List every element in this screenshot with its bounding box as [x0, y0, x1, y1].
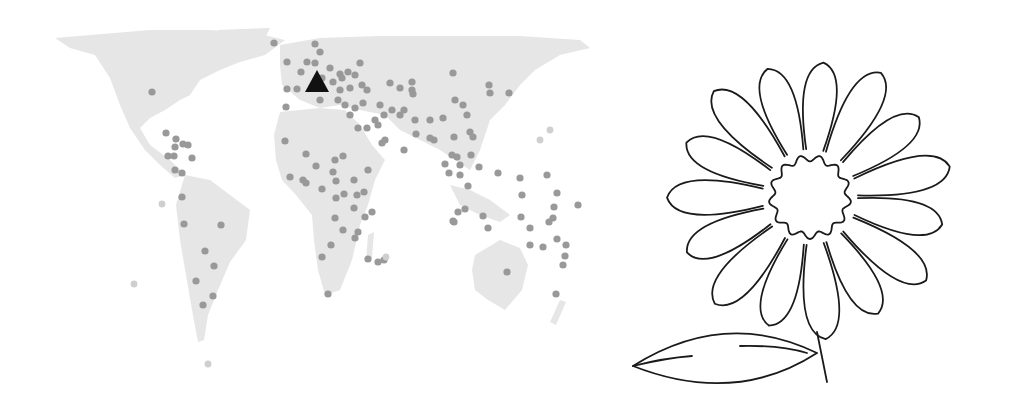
location-dot	[353, 191, 360, 198]
location-dot	[412, 130, 419, 137]
location-dot	[559, 261, 566, 268]
location-dot	[552, 290, 559, 297]
location-dot	[449, 69, 456, 76]
location-dot	[340, 190, 347, 197]
location-dot	[311, 40, 318, 47]
location-dot	[209, 292, 216, 299]
faint-location-dot	[537, 137, 544, 144]
location-dot	[486, 89, 493, 96]
location-dot	[464, 182, 471, 189]
location-dot	[184, 141, 191, 148]
location-dot	[303, 58, 310, 65]
location-dot	[451, 96, 458, 103]
flower-petal	[854, 156, 949, 196]
location-dot	[400, 146, 407, 153]
location-dot	[368, 208, 375, 215]
location-dot	[408, 78, 415, 85]
location-dot	[350, 176, 357, 183]
location-dot	[516, 174, 523, 181]
location-dot	[526, 241, 533, 248]
location-dot	[518, 191, 525, 198]
location-dot	[172, 135, 179, 142]
location-dot	[539, 243, 546, 250]
location-dot	[210, 262, 217, 269]
location-dot	[351, 104, 358, 111]
location-dot	[331, 156, 338, 163]
location-dot	[448, 151, 455, 158]
location-dot	[574, 201, 581, 208]
location-dot	[380, 111, 387, 118]
location-dot	[356, 59, 363, 66]
location-dot	[346, 111, 353, 118]
location-dot	[408, 86, 415, 93]
location-dot	[311, 59, 318, 66]
location-dot	[312, 162, 319, 169]
location-dot	[378, 139, 385, 146]
flower-petal	[712, 227, 785, 306]
faint-location-dot	[205, 361, 212, 368]
location-dot	[324, 290, 331, 297]
location-dot	[332, 177, 339, 184]
location-dot	[461, 205, 468, 212]
location-dot	[459, 101, 466, 108]
location-dot	[450, 218, 457, 225]
location-dot	[334, 96, 341, 103]
location-dot	[363, 124, 370, 131]
location-dot	[374, 121, 381, 128]
flower-petal	[687, 209, 771, 259]
location-dot	[341, 101, 348, 108]
location-dot	[553, 235, 560, 242]
location-dot	[318, 185, 325, 192]
location-dot	[170, 152, 177, 159]
location-dot	[344, 68, 351, 75]
location-dot	[450, 133, 457, 140]
location-dot	[361, 213, 368, 220]
location-dot	[359, 99, 366, 106]
location-dot	[339, 226, 346, 233]
flower-leaf-vein	[633, 346, 807, 366]
location-dot	[286, 173, 293, 180]
flower-petal	[686, 136, 770, 186]
location-dot	[354, 228, 361, 235]
location-dot	[430, 136, 437, 143]
location-dot	[171, 143, 178, 150]
flower-petal	[760, 239, 803, 325]
location-dot	[316, 96, 323, 103]
flower-line-drawing	[620, 40, 980, 400]
location-dot	[386, 79, 393, 86]
location-dot	[339, 152, 346, 159]
location-dot	[456, 171, 463, 178]
location-dot	[336, 86, 343, 93]
continent-south-america	[176, 175, 250, 342]
flower-petal	[803, 63, 837, 151]
location-dot	[148, 88, 155, 95]
location-dot	[441, 160, 448, 167]
flower-center	[769, 156, 851, 239]
location-dot	[283, 58, 290, 65]
location-dot	[550, 203, 557, 210]
location-dot	[360, 188, 367, 195]
faint-location-dot	[131, 281, 138, 288]
continent-australia	[472, 240, 528, 310]
location-dot	[426, 116, 433, 123]
location-dot	[439, 114, 446, 121]
location-dot	[374, 258, 381, 265]
location-dot	[192, 277, 199, 284]
location-dot	[350, 204, 357, 211]
flower-petal	[667, 180, 763, 215]
location-dot	[454, 208, 461, 215]
flower-leaf	[633, 333, 817, 383]
location-dot	[293, 85, 300, 92]
location-dot	[351, 71, 358, 78]
location-dot	[281, 137, 288, 144]
faint-location-dot	[159, 201, 166, 208]
flower-petal	[759, 69, 803, 155]
location-dot	[526, 224, 533, 231]
location-dot	[178, 193, 185, 200]
location-dot	[517, 213, 524, 220]
location-dot	[329, 168, 336, 175]
location-dot	[475, 163, 482, 170]
location-dot	[364, 166, 371, 173]
location-dot	[283, 85, 290, 92]
location-dot	[302, 150, 309, 157]
